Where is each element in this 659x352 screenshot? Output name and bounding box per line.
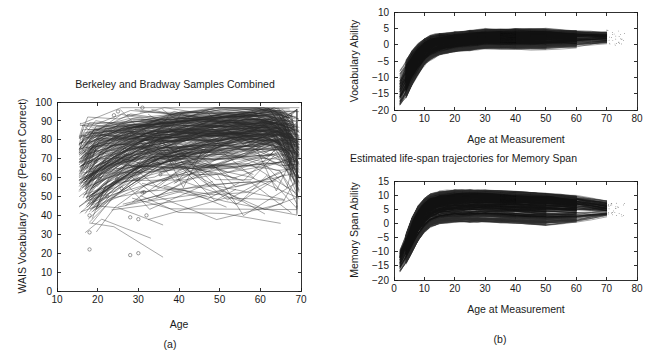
svg-text:50: 50 [41, 191, 53, 202]
svg-text:60: 60 [571, 113, 583, 124]
svg-text:−20: −20 [372, 275, 389, 286]
svg-text:10: 10 [378, 190, 390, 201]
svg-text:10: 10 [41, 267, 53, 278]
panel-b-top-vocabulary: 01020304050607080−20−15−10−50510 Age at … [330, 0, 659, 152]
panel-a-data-lines [79, 106, 299, 257]
panel-b-bottom-svg: Estimated life-span trajectories for Mem… [330, 148, 659, 352]
svg-text:−20: −20 [372, 105, 389, 116]
svg-text:10: 10 [378, 7, 390, 18]
panel-b-bottom-data-lines [400, 189, 625, 271]
figure-container: Berkeley and Bradway Samples Combined 10… [0, 0, 659, 352]
panel-b-top-data-lines [400, 28, 625, 105]
svg-text:50: 50 [214, 294, 226, 305]
svg-text:−5: −5 [378, 56, 390, 67]
svg-text:5: 5 [383, 204, 389, 215]
svg-text:−10: −10 [372, 72, 389, 83]
svg-text:80: 80 [41, 134, 53, 145]
panel-b-top-ylabel: Vocabulary Ability [348, 19, 360, 102]
svg-text:30: 30 [133, 294, 145, 305]
svg-text:0: 0 [46, 286, 52, 297]
svg-text:0: 0 [391, 283, 397, 294]
svg-text:90: 90 [41, 116, 53, 127]
svg-text:30: 30 [480, 283, 492, 294]
svg-text:60: 60 [571, 283, 583, 294]
panel-b-top-svg: 01020304050607080−20−15−10−50510 Age at … [330, 0, 659, 152]
panel-a-berkeley-bradway: Berkeley and Bradway Samples Combined 10… [0, 70, 330, 352]
svg-text:30: 30 [480, 113, 492, 124]
svg-text:10: 10 [419, 113, 431, 124]
svg-text:0: 0 [383, 39, 389, 50]
panel-b-caption: (b) [494, 333, 507, 345]
svg-text:5: 5 [383, 23, 389, 34]
svg-text:30: 30 [41, 229, 53, 240]
panel-a-caption: (a) [164, 338, 177, 350]
svg-text:70: 70 [601, 113, 613, 124]
svg-text:40: 40 [510, 283, 522, 294]
svg-text:50: 50 [540, 283, 552, 294]
svg-text:20: 20 [449, 113, 461, 124]
svg-text:70: 70 [601, 283, 613, 294]
svg-text:−15: −15 [372, 88, 389, 99]
panel-b-bottom-ylabel: Memory Span Ability [348, 181, 360, 277]
svg-text:−10: −10 [372, 246, 389, 257]
svg-text:40: 40 [41, 210, 53, 221]
panel-b-bottom-title: Estimated life-span trajectories for Mem… [350, 152, 577, 164]
svg-text:60: 60 [41, 172, 53, 183]
svg-text:20: 20 [92, 294, 104, 305]
panel-a-svg: Berkeley and Bradway Samples Combined 10… [0, 70, 330, 352]
panel-a-title: Berkeley and Bradway Samples Combined [75, 78, 275, 90]
svg-text:10: 10 [51, 294, 63, 305]
panel-b-top-xlabel: Age at Measurement [467, 133, 565, 145]
panel-a-xlabel: Age [170, 318, 189, 330]
panel-a-ylabel: WAIS Vocabulary Score (Percent Correct) [16, 98, 28, 293]
svg-text:100: 100 [35, 97, 52, 108]
svg-text:40: 40 [173, 294, 185, 305]
panel-b-bottom-memory-span: Estimated life-span trajectories for Mem… [330, 148, 659, 352]
svg-text:70: 70 [41, 153, 53, 164]
panel-b-top-plot-frame [394, 12, 637, 110]
svg-text:20: 20 [41, 248, 53, 259]
svg-text:50: 50 [540, 113, 552, 124]
svg-text:80: 80 [631, 113, 643, 124]
svg-text:80: 80 [631, 283, 643, 294]
svg-text:0: 0 [391, 113, 397, 124]
panel-b-bottom-xlabel: Age at Measurement [467, 303, 565, 315]
svg-text:20: 20 [449, 283, 461, 294]
svg-text:15: 15 [378, 176, 390, 187]
svg-text:0: 0 [383, 218, 389, 229]
svg-text:70: 70 [295, 294, 307, 305]
svg-text:60: 60 [255, 294, 267, 305]
svg-text:−5: −5 [378, 232, 390, 243]
svg-text:40: 40 [510, 113, 522, 124]
svg-text:10: 10 [419, 283, 431, 294]
svg-text:−15: −15 [372, 260, 389, 271]
